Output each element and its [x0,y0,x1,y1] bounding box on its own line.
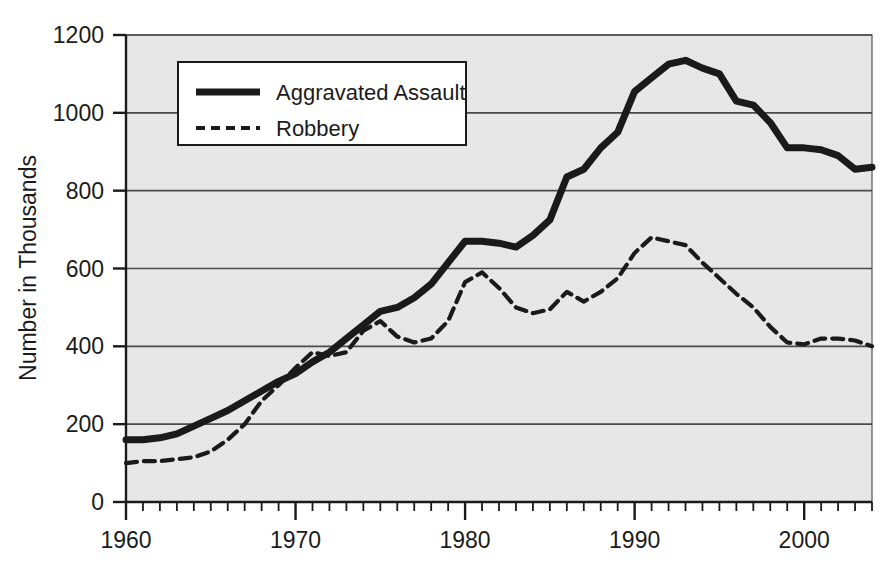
y-tick-label: 600 [66,256,104,282]
x-tick-label: 2000 [779,527,830,553]
y-tick-label: 0 [91,489,104,515]
y-tick-label: 200 [66,411,104,437]
x-tick-label: 1990 [609,527,660,553]
legend-label-1: Robbery [276,116,359,141]
x-tick-label: 1980 [440,527,491,553]
legend: Aggravated Assault Robbery [178,62,466,145]
x-tick-label: 1970 [270,527,321,553]
line-chart: Aggravated Assault and Robbery 020040060… [0,0,891,568]
chart-figure: Aggravated Assault and Robbery 020040060… [0,0,891,568]
y-tick-label: 400 [66,333,104,359]
y-tick-label: 1000 [53,100,104,126]
y-tick-label: 1200 [53,22,104,48]
y-axis-title: Number in Thousands [15,155,41,381]
x-tick-label: 1960 [100,527,151,553]
legend-label-0: Aggravated Assault [276,80,466,105]
y-tick-label: 800 [66,178,104,204]
